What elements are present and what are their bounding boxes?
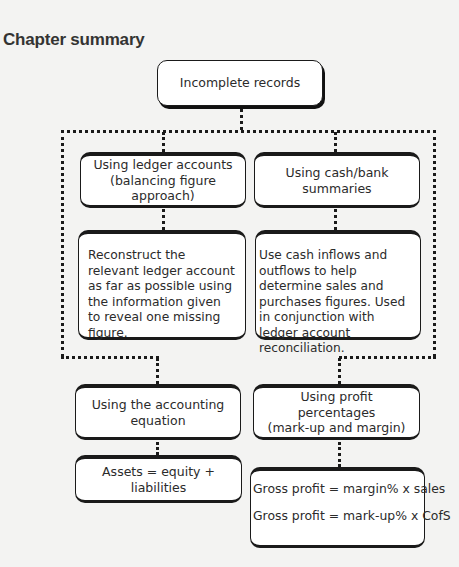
connector-ledger (162, 132, 165, 152)
method-equation-detail-text: Assets = equity + liabilities (82, 464, 235, 495)
method-ledger-detail-text: Reconstruct the relevant ledger account … (88, 248, 237, 341)
root-node-label: Incomplete records (180, 75, 300, 91)
formula-markup: Gross profit = mark-up% x CofS (253, 508, 451, 524)
method-equation-detail: Assets = equity + liabilities (75, 455, 242, 503)
connector-accounting-equation (156, 358, 159, 384)
group-frame-top (61, 130, 436, 133)
method-cash-detail-text: Use cash inflows and outflows to help de… (259, 248, 417, 357)
method-profit-heading-2: (mark-up and margin) (268, 420, 406, 436)
method-cash-heading: Using cash/bank summaries (261, 165, 413, 196)
group-frame-right (433, 130, 436, 357)
method-ledger-heading-1: Using ledger accounts (93, 157, 232, 173)
connector-cash (334, 132, 337, 152)
method-profit-formulas: Gross profit = margin% x sales Gross pro… (250, 467, 425, 548)
method-profit-heading-1: Using profit percentages (260, 389, 413, 420)
formula-margin: Gross profit = margin% x sales (253, 481, 445, 497)
method-equation-heading-2: equation (130, 413, 185, 429)
group-frame-bottom-left (61, 356, 159, 359)
page-title: Chapter summary (3, 30, 145, 50)
method-ledger-heading-2: (balancing figure approach) (87, 173, 239, 204)
root-node-incomplete-records: Incomplete records (157, 60, 323, 106)
method-equation-heading-1: Using the accounting (92, 397, 225, 413)
connector-root (240, 109, 243, 130)
connector-profit-detail (338, 442, 341, 467)
connector-ledger-detail (162, 209, 165, 230)
method-ledger-detail: Reconstruct the relevant ledger account … (78, 230, 246, 340)
method-profit-percentages: Using profit percentages (mark-up and ma… (253, 384, 420, 440)
method-ledger-accounts: Using ledger accounts (balancing figure … (80, 152, 246, 208)
method-accounting-equation: Using the accounting equation (75, 384, 241, 440)
connector-cash-detail (334, 209, 337, 230)
method-cash-bank-summaries: Using cash/bank summaries (254, 152, 420, 208)
connector-profit-percentages (338, 358, 341, 384)
group-frame-left (61, 130, 64, 357)
connector-equation-detail (156, 442, 159, 455)
method-cash-detail: Use cash inflows and outflows to help de… (255, 230, 421, 340)
